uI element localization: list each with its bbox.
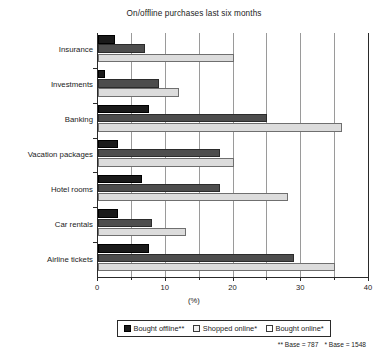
bar xyxy=(98,44,145,52)
y-axis-tick xyxy=(93,207,97,208)
plot-area xyxy=(97,33,368,277)
bar-group xyxy=(98,68,368,103)
category-label: Insurance xyxy=(0,45,93,54)
bar xyxy=(98,244,149,252)
y-axis-tick xyxy=(93,138,97,139)
bar-group xyxy=(98,138,368,173)
x-axis-tick xyxy=(165,277,166,281)
chart-legend: Bought offline**Shopped online*Bought on… xyxy=(117,320,331,337)
x-axis-title: (%) xyxy=(0,296,388,305)
y-axis-tick xyxy=(93,242,97,243)
legend-entry: Bought offline** xyxy=(124,324,184,333)
legend-entry: Shopped online* xyxy=(193,324,257,333)
bar xyxy=(98,209,118,217)
bar xyxy=(98,70,105,78)
bar xyxy=(98,219,152,227)
bar xyxy=(98,184,220,192)
gridline-40 xyxy=(368,33,369,277)
bar-group xyxy=(98,33,368,68)
bar xyxy=(98,105,149,113)
bar xyxy=(98,263,335,271)
bar xyxy=(98,88,179,96)
category-label: Hotel rooms xyxy=(0,185,93,194)
bar-group xyxy=(98,242,368,277)
x-axis-tick-label: 30 xyxy=(280,283,320,292)
legend-swatch-icon xyxy=(266,325,273,332)
x-axis-tick xyxy=(97,277,98,281)
bar xyxy=(98,79,159,87)
y-axis-tick xyxy=(93,172,97,173)
x-axis-tick-label: 40 xyxy=(348,283,388,292)
x-axis-minor-tick xyxy=(199,277,200,280)
bar xyxy=(98,140,118,148)
legend-label: Bought offline** xyxy=(134,324,185,333)
legend-label: Bought online* xyxy=(276,324,324,333)
x-axis-minor-tick xyxy=(131,277,132,280)
legend-entry: Bought online* xyxy=(266,324,324,333)
legend-footnote: ** Base = 787* Base = 1548 xyxy=(278,341,366,348)
x-axis-tick-label: 10 xyxy=(145,283,185,292)
footnote-single-base: * Base = 1548 xyxy=(324,341,366,348)
x-axis-minor-tick xyxy=(334,277,335,280)
x-axis-tick xyxy=(300,277,301,281)
bar xyxy=(98,158,234,166)
x-axis-minor-tick xyxy=(266,277,267,280)
bar xyxy=(98,35,115,43)
bar xyxy=(98,175,142,183)
y-axis-tick xyxy=(93,103,97,104)
y-axis-tick xyxy=(93,68,97,69)
bar xyxy=(98,228,186,236)
legend-swatch-icon xyxy=(193,325,200,332)
x-axis-tick xyxy=(368,277,369,281)
category-label: Airline tickets xyxy=(0,255,93,264)
chart-title: On/offline purchases last six months xyxy=(0,9,388,18)
category-label: Car rentals xyxy=(0,220,93,229)
x-axis-tick-label: 20 xyxy=(213,283,253,292)
bar xyxy=(98,149,220,157)
category-label: Vacation packages xyxy=(0,150,93,159)
footnote-double-base: ** Base = 787 xyxy=(278,341,319,348)
bar xyxy=(98,123,342,131)
legend-swatch-icon xyxy=(124,325,131,332)
legend-label: Shopped online* xyxy=(203,324,257,333)
bar-group xyxy=(98,172,368,207)
bar xyxy=(98,54,234,62)
category-label: Investments xyxy=(0,80,93,89)
category-label: Banking xyxy=(0,115,93,124)
x-axis-tick-label: 0 xyxy=(77,283,117,292)
bar xyxy=(98,114,267,122)
bar xyxy=(98,193,288,201)
bar xyxy=(98,254,294,262)
bar-group xyxy=(98,207,368,242)
x-axis-tick xyxy=(233,277,234,281)
bar-group xyxy=(98,103,368,138)
